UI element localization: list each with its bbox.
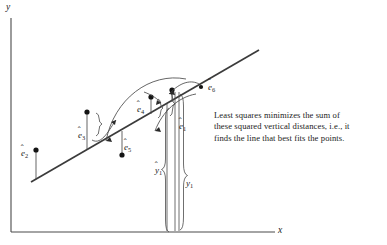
caption-line-2: these squared vertical distances, i.e., …	[214, 121, 382, 132]
residual-label-e5: e5	[124, 142, 131, 153]
measure-label-y-1: y1	[186, 178, 193, 189]
leader-arrows	[92, 78, 199, 141]
measure-label-yhat-1: y1	[155, 165, 162, 176]
caption-text: Least squares minimizes the sum of these…	[214, 110, 382, 144]
measurement-verticals	[167, 92, 179, 231]
brace-e3	[96, 113, 102, 136]
point-6	[199, 85, 203, 89]
brace-yhat-1	[162, 108, 170, 232]
leader-arrowheads	[106, 90, 175, 142]
data-points	[33, 85, 203, 158]
residual-label-e6: e6	[208, 82, 215, 93]
point-2	[33, 147, 38, 152]
point-5	[119, 152, 124, 157]
arrow-e1-curve	[155, 94, 196, 131]
residual-label-e4: e4	[137, 104, 144, 115]
caption-line-1: Least squares minimizes the sum of	[214, 110, 382, 121]
residual-segments	[36, 92, 172, 179]
arrow-e3-curve	[92, 120, 116, 141]
y-axis-label: y	[6, 2, 10, 12]
point-3	[84, 109, 89, 114]
residual-label-e1: e1	[179, 121, 186, 132]
residual-label-e2: e2	[21, 148, 28, 159]
residual-label-e3: e3	[78, 130, 85, 141]
x-axis-label: x	[278, 225, 282, 235]
residual-braces	[96, 93, 175, 136]
measure-braces	[162, 94, 188, 232]
caption-line-3: finds the line that best fits the points…	[214, 133, 382, 144]
brace-y-1	[180, 94, 188, 230]
